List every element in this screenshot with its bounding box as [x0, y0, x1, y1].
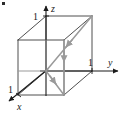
corner-mark — [2, 2, 5, 5]
figure-container: z y x 1 1 1 — [0, 0, 124, 114]
z-axis-tick-label: 1 — [33, 11, 38, 22]
x-axis-tick-label: 1 — [8, 84, 13, 95]
x-axis-label: x — [16, 101, 22, 112]
vector-space-diagonal-head — [66, 40, 72, 47]
y-axis-tick-label: 1 — [88, 57, 93, 68]
z-axis-label: z — [50, 3, 55, 14]
vector-arrows — [18, 16, 92, 95]
vector-base-diagonal-head — [50, 76, 56, 84]
axis-ticks — [16, 16, 92, 97]
y-axis-label: y — [107, 57, 113, 68]
cube-edge-depth-bottom-right — [64, 71, 92, 95]
cube-edge-depth-top-left — [18, 16, 46, 40]
unit-cube-vector-figure: z y x 1 1 1 — [0, 0, 124, 114]
cube-edge-depth-top-right — [64, 16, 92, 40]
x-axis-line — [9, 69, 48, 101]
